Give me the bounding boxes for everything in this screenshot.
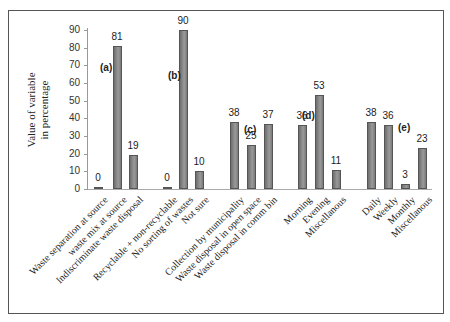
y-tick-mark [84, 65, 88, 66]
y-tick-label: 70 [56, 59, 80, 70]
bar [367, 122, 376, 189]
bar [163, 187, 172, 189]
group-label: (a) [100, 62, 112, 73]
group-label: (d) [302, 110, 315, 121]
bar-value-label: 36 [376, 110, 400, 121]
group-label: (b) [168, 70, 181, 81]
bar [418, 148, 427, 189]
y-tick-label: 60 [56, 77, 80, 88]
bar [298, 125, 307, 189]
bar-value-label: 37 [256, 109, 280, 120]
bar [401, 184, 410, 189]
y-axis-label-line-2: in percentage [38, 72, 51, 147]
bar [332, 170, 341, 189]
group-label: (c) [244, 124, 256, 135]
y-tick-mark [84, 83, 88, 84]
y-tick-mark [84, 48, 88, 49]
bar-value-label: 53 [307, 80, 331, 91]
bar-value-label: 90 [171, 15, 195, 26]
bar [113, 46, 122, 189]
y-tick-label: 40 [56, 112, 80, 123]
bar [315, 95, 324, 189]
y-tick-label: 90 [56, 24, 80, 35]
y-tick-label: 30 [56, 130, 80, 141]
y-axis [87, 28, 88, 190]
bar-value-label: 0 [155, 172, 179, 183]
bar [195, 171, 204, 189]
bar [230, 122, 239, 189]
bar-value-label: 11 [324, 155, 348, 166]
bar-value-label: 23 [410, 133, 434, 144]
y-tick-mark [84, 30, 88, 31]
y-tick-label: 50 [56, 95, 80, 106]
bar [264, 124, 273, 189]
y-tick-label: 0 [56, 183, 80, 194]
y-tick-mark [84, 154, 88, 155]
y-axis-label-line-1: Value of variable [25, 72, 38, 147]
group-label: (e) [398, 122, 410, 133]
x-axis [87, 189, 432, 190]
bar [94, 187, 103, 189]
bar-value-label: 19 [121, 140, 145, 151]
bar-value-label: 10 [187, 156, 211, 167]
bar-value-label: 81 [105, 31, 129, 42]
y-tick-label: 20 [56, 148, 80, 159]
bar [247, 145, 256, 189]
y-tick-mark [84, 101, 88, 102]
y-tick-mark [84, 118, 88, 119]
y-tick-label: 80 [56, 42, 80, 53]
y-axis-label: Value of variable in percentage [18, 50, 58, 170]
y-tick-label: 10 [56, 165, 80, 176]
bar-value-label: 0 [86, 172, 110, 183]
bar-value-label: 38 [222, 107, 246, 118]
y-tick-mark [84, 136, 88, 137]
bar [129, 155, 138, 189]
bar-value-label: 3 [393, 169, 417, 180]
bar [384, 125, 393, 189]
y-tick-mark [84, 189, 88, 190]
